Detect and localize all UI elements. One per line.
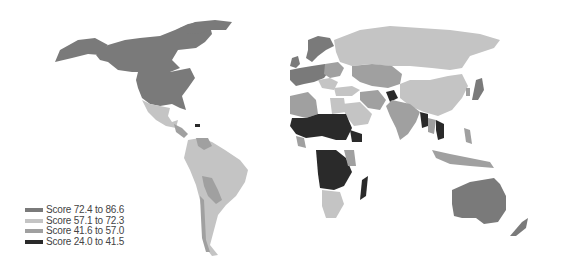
region-new-zealand: [510, 218, 528, 236]
region-indonesia: [432, 150, 494, 168]
region-uk: [290, 56, 300, 68]
legend-item-1: Score 72.4 to 86.6: [25, 205, 124, 216]
region-japan: [472, 78, 484, 100]
region-myanmar: [420, 112, 428, 128]
region-haiti: [195, 124, 200, 127]
region-scandinavia: [306, 36, 334, 62]
region-southern-africa: [322, 190, 344, 218]
legend-swatch-3: [25, 229, 43, 233]
region-central-asia: [352, 64, 402, 88]
region-horn-africa: [350, 130, 362, 142]
region-west-africa: [296, 136, 306, 148]
legend-swatch-2: [25, 219, 43, 223]
region-sahel: [290, 114, 352, 140]
region-philippines: [464, 128, 472, 144]
legend-item-3: Score 41.6 to 57.0: [25, 226, 124, 237]
legend-label-1: Score 72.4 to 86.6: [46, 205, 124, 215]
region-russia: [334, 26, 500, 70]
legend-swatch-4: [25, 240, 43, 244]
region-laos-cambodia: [436, 120, 444, 140]
region-central-america: [174, 124, 188, 138]
region-thailand: [428, 118, 436, 134]
region-turkey: [334, 86, 360, 96]
legend: Score 72.4 to 86.6 Score 57.1 to 72.3 Sc…: [25, 205, 124, 247]
legend-swatch-1: [25, 208, 43, 212]
legend-label-4: Score 24.0 to 41.5: [46, 237, 124, 247]
region-north-africa: [290, 92, 318, 118]
region-korea: [466, 88, 470, 96]
region-egypt: [330, 98, 346, 114]
legend-item-4: Score 24.0 to 41.5: [25, 237, 124, 248]
region-madagascar: [360, 176, 368, 200]
legend-label-3: Score 41.6 to 57.0: [46, 226, 124, 236]
legend-label-2: Score 57.1 to 72.3: [46, 216, 124, 226]
region-australia: [452, 178, 506, 224]
region-eastern-europe: [324, 62, 344, 78]
